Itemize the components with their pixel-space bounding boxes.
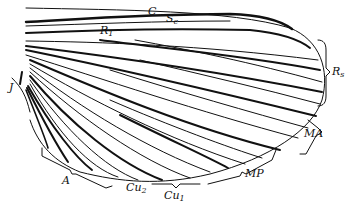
label-cu2-sub: 2 — [142, 186, 147, 195]
vein-subcosta — [26, 21, 230, 26]
label-media-anterior: MA — [304, 128, 323, 139]
label-anal: A — [62, 175, 70, 186]
label-jugal: J — [9, 82, 13, 93]
label-radius1: R1 — [100, 25, 113, 38]
label-jugal-text: J — [9, 81, 13, 94]
label-ma-text: MA — [304, 127, 323, 140]
label-subcosta: Sc — [166, 13, 178, 26]
label-radial-sector: Rs — [332, 66, 344, 79]
label-mp-text: MP — [245, 167, 264, 180]
bracket-cu1 — [152, 184, 200, 188]
label-cu1-sub: 1 — [180, 194, 185, 203]
vein-radius1 — [26, 29, 310, 48]
bracket-a — [42, 148, 112, 188]
label-radius1-sub: 1 — [108, 29, 113, 38]
label-rs-sub: s — [340, 70, 344, 79]
label-subcosta-sub: c — [174, 17, 178, 26]
label-cu1-text: Cu — [164, 189, 180, 202]
label-cu2-text: Cu — [126, 181, 142, 194]
label-anal-text: A — [62, 174, 70, 187]
label-costa-text: C — [148, 5, 156, 18]
label-cubitus2: Cu2 — [126, 182, 147, 195]
label-subcosta-text: S — [166, 12, 174, 25]
label-cubitus1: Cu1 — [164, 190, 185, 203]
label-media-posterior: MP — [245, 168, 264, 179]
label-costa: C — [148, 6, 156, 17]
wing-diagram — [0, 0, 348, 209]
